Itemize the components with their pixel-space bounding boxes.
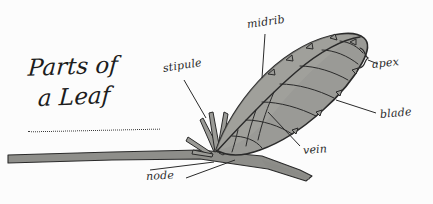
midrib-leader-line [262,34,265,78]
figure-title: Parts of a Leaf [26,54,174,107]
stipule-leader-line [184,80,206,118]
label-node: node [146,169,175,183]
blade-leader-line [336,100,376,113]
label-vein: vein [303,142,328,157]
title-line-1: Parts of [27,51,174,80]
label-blade: blade [379,105,412,121]
leaf-diagram-figure: Parts of a Leaf stipule midrib apex blad… [0,0,433,204]
title-line-2: a Leaf [37,81,174,110]
